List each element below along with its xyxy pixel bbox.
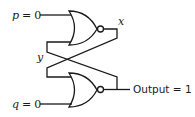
bottom-nor-bubble <box>98 87 104 93</box>
y-node-label: y <box>36 51 44 64</box>
output-label: Output = 1 <box>133 83 192 95</box>
top-nor-bubble <box>98 26 104 32</box>
sr-latch-diagram: p=0 q=0 x y Output = 1 <box>0 0 195 117</box>
p-input-label: p=0 <box>12 9 41 22</box>
q-input-label: q=0 <box>12 98 41 111</box>
bottom-nor-gate <box>69 73 97 107</box>
top-nor-gate <box>69 11 97 45</box>
x-node-label: x <box>118 15 125 28</box>
